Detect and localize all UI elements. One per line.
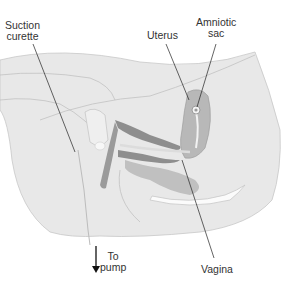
- anatomy-illustration: [0, 0, 283, 286]
- label-uterus: Uterus: [147, 30, 178, 41]
- label-line: sac: [196, 28, 236, 39]
- label-line: pump: [100, 262, 126, 273]
- label-line: curette: [5, 31, 40, 42]
- embryo: [194, 108, 197, 111]
- label-suction-curette: Suction curette: [5, 20, 40, 42]
- to-pump-arrow-icon: [92, 266, 100, 273]
- label-to-pump: To pump: [100, 251, 126, 273]
- label-vagina: Vagina: [201, 264, 233, 275]
- body-silhouette: [0, 52, 280, 237]
- finger-tip: [95, 142, 105, 150]
- label-amniotic-sac: Amniotic sac: [196, 17, 236, 39]
